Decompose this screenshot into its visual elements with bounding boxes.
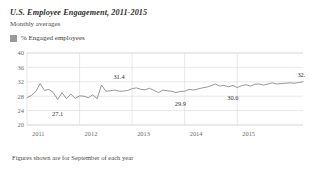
chart-title: U.S. Employee Engagement, 2011-2015	[10, 7, 305, 18]
line-chart-svg: 2024283236402011201220132014201527.131.4…	[10, 47, 305, 143]
chart-footnote: Figures shown are for September of each …	[12, 154, 305, 161]
data-point-value-label: 29.9	[175, 100, 186, 107]
y-axis-tick-label: 40	[18, 49, 24, 56]
chart-figure: U.S. Employee Engagement, 2011-2015 Mont…	[0, 0, 313, 173]
x-axis-tick-label: 2014	[190, 130, 204, 137]
data-point-value-label: 32.0	[297, 71, 305, 78]
chart-legend: % Engaged employees	[10, 33, 305, 43]
data-point-value-label: 31.4	[113, 73, 125, 80]
y-axis-tick-label: 36	[18, 64, 24, 71]
legend-swatch-icon	[10, 35, 17, 42]
y-axis-tick-label: 32	[18, 78, 24, 85]
y-axis-tick-label: 24	[18, 107, 25, 114]
x-axis-tick-label: 2012	[85, 130, 98, 137]
chart-subtitle: Monthly averages	[10, 19, 305, 30]
data-point-value-label: 30.6	[227, 94, 238, 101]
plot-area: 2024283236402011201220132014201527.131.4…	[10, 47, 305, 143]
x-axis-tick-label: 2013	[137, 130, 150, 137]
data-series-line	[27, 82, 303, 100]
x-axis-tick-label: 2015	[242, 130, 255, 137]
y-axis-tick-label: 20	[18, 121, 24, 128]
legend-label: % Engaged employees	[21, 34, 85, 42]
data-point-value-label: 27.1	[52, 110, 63, 117]
x-axis-tick-label: 2011	[32, 130, 45, 137]
y-axis-tick-label: 28	[18, 93, 24, 100]
